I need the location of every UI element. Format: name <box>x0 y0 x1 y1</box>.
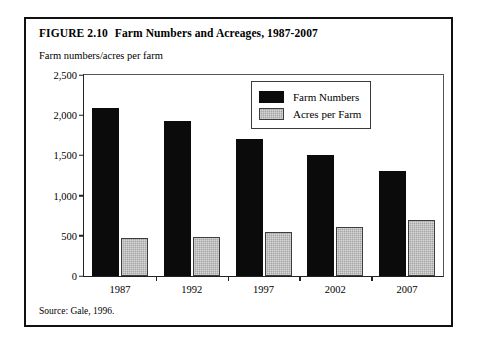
bar-acres-per-farm-1997 <box>265 232 292 276</box>
figure-title-text: Farm Numbers and Acreages, 1987-2007 <box>115 27 318 39</box>
legend-item-acres-per-farm: Acres per Farm <box>259 105 361 122</box>
bar-acres-per-farm-1987 <box>121 238 148 276</box>
chart-legend: Farm Numbers Acres per Farm <box>251 81 371 129</box>
x-axis-tick-label: 1992 <box>181 284 202 295</box>
y-axis-tick-label: 500 <box>61 230 84 241</box>
figure-card: FIGURE 2.10Farm Numbers and Acreages, 19… <box>24 17 453 327</box>
x-axis-tick-mark <box>228 276 230 281</box>
x-axis-tick-label: 2002 <box>325 284 346 295</box>
legend-swatch-icon-acres-per-farm <box>259 108 284 120</box>
bar-acres-per-farm-1992 <box>193 237 220 276</box>
page-title: FIGURE 2.10Farm Numbers and Acreages, 19… <box>39 27 318 39</box>
y-axis-tick-label: 2,000 <box>53 110 84 121</box>
legend-label-farm-numbers: Farm Numbers <box>293 91 359 103</box>
bar-farm-numbers-1992 <box>164 121 191 276</box>
x-axis-tick-label: 2007 <box>397 284 418 295</box>
y-axis-tick-label: 1,500 <box>53 150 84 161</box>
y-axis-caption: Farm numbers/acres per farm <box>39 50 163 61</box>
y-axis-tick-label: 2,500 <box>53 70 84 81</box>
x-axis-tick-mark <box>156 276 158 281</box>
x-axis-tick-mark <box>371 276 373 281</box>
chart-plot-area: 05001,0001,5002,0002,500 198719921997200… <box>83 74 444 277</box>
y-axis-tick-label: 0 <box>72 271 84 282</box>
y-axis-tick-label: 1,000 <box>53 190 84 201</box>
x-axis-tick-label: 1987 <box>109 284 130 295</box>
bar-acres-per-farm-2002 <box>336 227 363 276</box>
bar-farm-numbers-1987 <box>92 108 119 276</box>
figure-number: FIGURE 2.10 <box>39 27 108 39</box>
x-axis-tick-mark <box>299 276 301 281</box>
bar-farm-numbers-1997 <box>236 139 263 276</box>
x-axis-tick-label: 1997 <box>253 284 274 295</box>
bar-farm-numbers-2007 <box>379 171 406 276</box>
legend-swatch-icon-farm-numbers <box>259 91 284 103</box>
bar-farm-numbers-2002 <box>307 155 334 276</box>
legend-item-farm-numbers: Farm Numbers <box>259 88 361 105</box>
legend-label-acres-per-farm: Acres per Farm <box>293 108 361 120</box>
bar-acres-per-farm-2007 <box>408 220 435 276</box>
source-note: Source: Gale, 1996. <box>39 306 114 316</box>
